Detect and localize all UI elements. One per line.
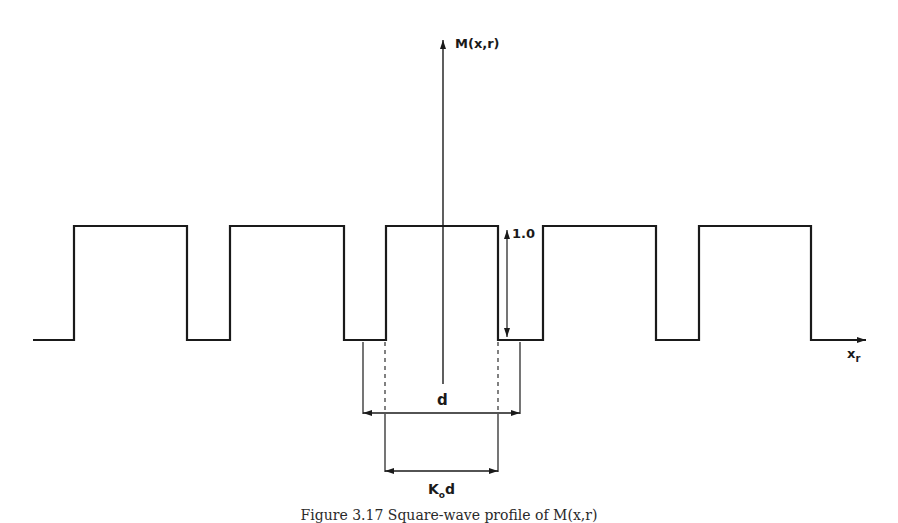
- x-axis-label: xr: [847, 346, 860, 364]
- square-wave-curve: [33, 226, 860, 340]
- figure-caption: Figure 3.17 Square-wave profile of M(x,r…: [0, 507, 898, 523]
- amplitude-label: 1.0: [512, 226, 535, 241]
- y-axis-label: M(x,r): [455, 36, 500, 51]
- pulse-width-label: Kod: [428, 481, 455, 500]
- period-label: d: [437, 391, 448, 409]
